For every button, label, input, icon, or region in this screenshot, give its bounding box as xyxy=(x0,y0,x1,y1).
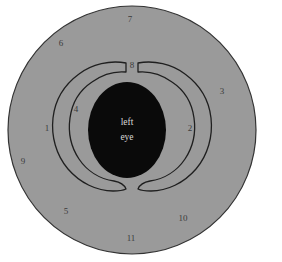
label-3: 3 xyxy=(220,86,225,96)
pupil-lens-core xyxy=(88,82,166,178)
center-label-line1: left xyxy=(121,117,134,127)
label-11: 11 xyxy=(127,233,136,243)
label-5: 5 xyxy=(64,206,69,216)
label-4: 4 xyxy=(74,104,79,114)
label-10: 10 xyxy=(179,213,189,223)
label-1: 1 xyxy=(45,123,50,133)
eye-diagram: 1 2 3 4 5 6 7 8 9 10 11 left eye xyxy=(0,0,282,262)
label-2: 2 xyxy=(188,123,193,133)
label-7: 7 xyxy=(128,14,133,24)
label-6: 6 xyxy=(59,38,64,48)
label-8: 8 xyxy=(130,60,135,70)
label-9: 9 xyxy=(21,156,26,166)
center-label-line2: eye xyxy=(120,132,133,142)
eye-diagram-canvas: 1 2 3 4 5 6 7 8 9 10 11 left eye xyxy=(0,0,282,262)
